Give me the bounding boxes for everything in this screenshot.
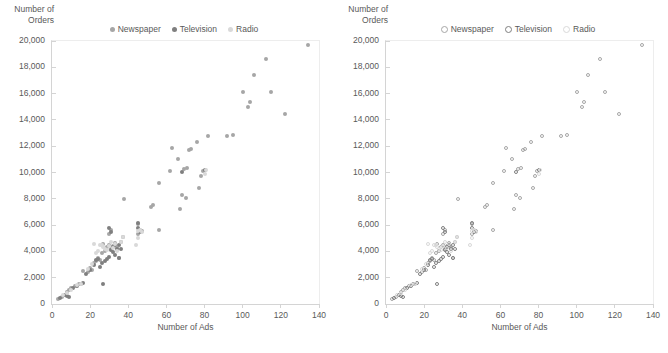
data-point-television <box>441 255 445 259</box>
data-point-newspaper <box>512 207 516 211</box>
data-point-newspaper <box>519 166 523 170</box>
y-tick-label: 12,000 <box>19 140 45 150</box>
data-point-radio <box>430 249 434 253</box>
data-point-newspaper <box>197 186 201 190</box>
data-point-newspaper <box>529 140 533 144</box>
data-point-radio <box>140 230 144 234</box>
data-point-radio <box>537 172 541 176</box>
data-point-television <box>98 265 102 269</box>
y-tick-mark <box>52 198 56 199</box>
y-tick-label: 16,000 <box>353 88 379 98</box>
data-point-newspaper <box>264 57 268 61</box>
y-tick-label: 6,000 <box>358 219 379 229</box>
y-tick-mark <box>386 93 390 94</box>
y-tick-mark <box>52 67 56 68</box>
y-tick-label: 10,000 <box>353 167 379 177</box>
x-tick-label: 100 <box>570 310 584 320</box>
y-tick-mark <box>386 277 390 278</box>
plot-wrapper: 02,0004,0006,0008,00010,00012,00014,0001… <box>334 0 668 353</box>
data-point-radio <box>86 267 90 271</box>
chart-panel-hollow: Number of Orders NewspaperTelevisionRadi… <box>334 0 668 353</box>
y-tick-label: 18,000 <box>353 61 379 71</box>
data-point-newspaper <box>184 196 188 200</box>
data-point-newspaper <box>559 134 563 138</box>
x-tick-label: 20 <box>419 310 428 320</box>
y-tick-mark <box>52 277 56 278</box>
y-tick-label: 6,000 <box>24 219 45 229</box>
data-point-newspaper <box>252 73 256 77</box>
data-point-radio <box>79 282 83 286</box>
x-tick-mark <box>500 304 501 308</box>
data-point-radio <box>203 172 207 176</box>
y-tick-label: 20,000 <box>19 35 45 45</box>
data-point-television <box>443 230 447 234</box>
y-tick-label: 8,000 <box>24 193 45 203</box>
plot-area: 02,0004,0006,0008,00010,00012,00014,0001… <box>385 40 654 305</box>
data-point-television <box>401 295 405 299</box>
data-point-newspaper <box>241 90 245 94</box>
data-point-radio <box>413 282 417 286</box>
data-point-newspaper <box>225 134 229 138</box>
data-point-newspaper <box>151 203 155 207</box>
x-tick-label: 40 <box>124 310 133 320</box>
data-point-newspaper <box>514 193 518 197</box>
x-tick-label: 40 <box>458 310 467 320</box>
x-tick-mark <box>204 304 205 308</box>
data-point-newspaper <box>180 193 184 197</box>
x-tick-mark <box>280 304 281 308</box>
data-point-newspaper <box>283 112 287 116</box>
data-point-newspaper <box>122 197 126 201</box>
y-tick-label: 16,000 <box>19 88 45 98</box>
y-tick-label: 20,000 <box>353 35 379 45</box>
data-point-newspaper <box>598 57 602 61</box>
data-point-radio <box>470 236 474 240</box>
data-point-television <box>109 230 113 234</box>
data-point-television <box>418 272 422 276</box>
y-tick-label: 4,000 <box>358 245 379 255</box>
data-point-newspaper <box>246 105 250 109</box>
data-point-television <box>117 256 121 260</box>
x-tick-mark <box>576 304 577 308</box>
y-tick-mark <box>386 304 390 305</box>
x-tick-mark <box>462 304 463 308</box>
data-point-radio <box>119 240 123 244</box>
data-point-radio <box>426 242 430 246</box>
data-point-newspaper <box>518 196 522 200</box>
x-tick-label: 20 <box>85 310 94 320</box>
x-tick-mark <box>242 304 243 308</box>
data-point-newspaper <box>176 157 180 161</box>
data-point-television <box>107 255 111 259</box>
data-point-television <box>84 272 88 276</box>
y-tick-mark <box>386 146 390 147</box>
data-point-newspaper <box>491 228 495 232</box>
data-point-newspaper <box>157 228 161 232</box>
x-tick-label: 0 <box>384 310 389 320</box>
x-tick-label: 140 <box>312 310 326 320</box>
y-tick-label: 14,000 <box>19 114 45 124</box>
data-point-newspaper <box>269 90 273 94</box>
y-tick-mark <box>386 172 390 173</box>
x-tick-mark <box>386 304 387 308</box>
y-tick-mark <box>52 41 56 42</box>
y-tick-mark <box>386 67 390 68</box>
chart-panel-filled: Number of Orders NewspaperTelevisionRadi… <box>0 0 334 353</box>
data-point-newspaper <box>523 147 527 151</box>
data-point-television <box>514 170 518 174</box>
y-tick-label: 14,000 <box>353 114 379 124</box>
x-tick-mark <box>166 304 167 308</box>
y-tick-label: 0 <box>40 298 45 308</box>
data-point-newspaper <box>575 90 579 94</box>
y-tick-mark <box>52 93 56 94</box>
data-point-newspaper <box>531 186 535 190</box>
y-tick-mark <box>52 119 56 120</box>
x-tick-label: 120 <box>274 310 288 320</box>
y-tick-label: 8,000 <box>358 193 379 203</box>
data-point-television <box>136 221 140 225</box>
data-point-newspaper <box>168 169 172 173</box>
data-point-television <box>453 247 457 251</box>
y-tick-mark <box>52 251 56 252</box>
data-point-newspaper <box>540 134 544 138</box>
y-tick-mark <box>386 119 390 120</box>
data-point-newspaper <box>185 166 189 170</box>
x-tick-mark <box>614 304 615 308</box>
